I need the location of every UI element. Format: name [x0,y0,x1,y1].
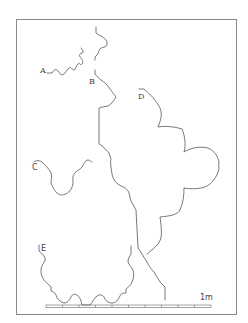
profile-label-d: D [138,92,144,101]
profile-label-e: E [41,244,46,253]
profile-a [47,48,83,75]
profile-label-b: B [89,77,95,86]
profile-label-a: A [39,66,46,75]
profile-e [39,245,134,305]
profiles-drawing: A B D C E 1m [0,0,248,323]
profile-label-c: C [32,163,38,172]
profile-c [34,160,92,195]
profile-b-top [95,27,107,60]
scale-bar [46,305,211,307]
scale-bar-label: 1m [200,293,213,302]
profile-d [139,89,219,254]
